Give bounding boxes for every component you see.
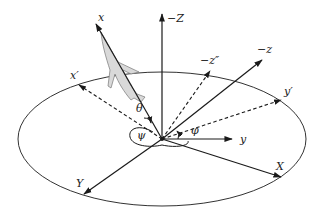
label-Y: Y xyxy=(76,177,85,190)
origin-point xyxy=(160,137,164,141)
attitude-diagram: −Z x x′ −z″ −z y′ y X Y θ ψ φ xyxy=(0,0,323,221)
phi-arc xyxy=(177,131,179,139)
label-psi: ψ xyxy=(137,129,146,142)
label-y-prime: y′ xyxy=(283,85,293,98)
axis-X xyxy=(162,139,281,177)
label-x-prime: x′ xyxy=(70,69,79,82)
label-x: x xyxy=(98,11,105,24)
aircraft-icon xyxy=(101,32,145,102)
axis-y-prime xyxy=(162,100,281,139)
axis-minus-z-double-prime xyxy=(162,71,210,139)
label-y: y xyxy=(239,133,247,146)
label-theta: θ xyxy=(136,102,143,115)
label-minus-z: −z xyxy=(257,43,272,56)
label-X: X xyxy=(275,160,285,173)
axis-Y xyxy=(84,139,162,194)
label-minus-Z: −Z xyxy=(167,12,184,25)
label-minus-z-double-prime: −z″ xyxy=(200,54,220,67)
label-phi: φ xyxy=(191,124,199,137)
axis-x-prime xyxy=(79,85,162,139)
axis-x xyxy=(96,24,162,139)
